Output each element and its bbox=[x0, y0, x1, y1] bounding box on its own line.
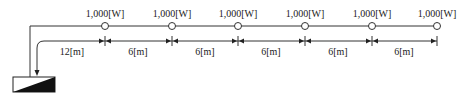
distribution-panel-icon bbox=[13, 77, 55, 92]
load-label: 1,000[W] bbox=[153, 8, 192, 19]
load-label: 1,000[W] bbox=[418, 8, 457, 19]
wiring-diagram: 1,000[W] 1,000[W] 1,000[W] 1,000[W] 1,00… bbox=[0, 0, 463, 93]
distance-label: 6[m] bbox=[195, 46, 214, 57]
load-label: 1,000[W] bbox=[286, 8, 325, 19]
distance-label: 6[m] bbox=[261, 46, 280, 57]
load-icon bbox=[102, 23, 109, 30]
load-icon bbox=[434, 23, 441, 30]
load-icon bbox=[169, 23, 176, 30]
feeder-line bbox=[30, 26, 437, 77]
distance-label: 6[m] bbox=[128, 46, 147, 57]
load-icon bbox=[369, 23, 376, 30]
distance-label: 6[m] bbox=[328, 46, 347, 57]
dimension-line bbox=[37, 41, 437, 73]
distance-label: 6[m] bbox=[394, 46, 413, 57]
distance-label: 12[m] bbox=[60, 46, 84, 57]
load-label: 1,000[W] bbox=[219, 8, 258, 19]
load-label: 1,000[W] bbox=[86, 8, 125, 19]
load-icon bbox=[235, 23, 242, 30]
arrow-down-icon bbox=[35, 70, 40, 76]
load-label: 1,000[W] bbox=[353, 8, 392, 19]
load-icon bbox=[302, 23, 309, 30]
